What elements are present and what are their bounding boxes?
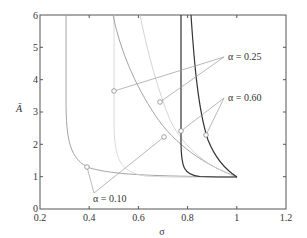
x-tick-label: 1.2 (280, 212, 293, 223)
curve-alpha-025-a (113, 15, 237, 177)
marker (162, 135, 167, 140)
y-tick-label: 0 (33, 203, 38, 214)
y-tick-label: 3 (33, 106, 38, 117)
annotation-alpha-025: α = 0.25 (228, 51, 261, 62)
marker (85, 165, 90, 170)
y-tick-labels: 0 1 2 3 4 5 6 (33, 10, 38, 215)
y-axis-label: Ā (15, 103, 23, 114)
marker (179, 129, 184, 134)
marker (158, 100, 163, 105)
curve-alpha-025-b (140, 15, 237, 177)
annotation-alpha-010: α = 0.10 (93, 193, 126, 204)
curve-alpha-010-a (66, 15, 237, 177)
x-ticks (89, 15, 237, 209)
chart: 0.2 0.4 0.6 0.8 1 1.2 0 1 2 3 4 5 6 σ Ā (0, 0, 307, 238)
annotation-alpha-060: α = 0.60 (228, 92, 261, 103)
marker (204, 133, 209, 138)
y-tick-label: 1 (33, 171, 38, 182)
y-tick-label: 6 (33, 10, 38, 21)
x-tick-label: 0.8 (181, 212, 194, 223)
y-tick-label: 2 (33, 139, 38, 150)
plot-area (40, 15, 286, 209)
marker (112, 89, 117, 94)
x-tick-label: 0.4 (83, 212, 96, 223)
curve-alpha-010-b (114, 15, 237, 177)
curves (66, 15, 237, 177)
y-tick-label: 5 (33, 42, 38, 53)
y-tick-label: 4 (33, 74, 38, 85)
y-ticks (40, 47, 286, 176)
x-tick-label: 1 (234, 212, 239, 223)
x-tick-labels: 0.2 0.4 0.6 0.8 1 1.2 (34, 212, 293, 223)
x-tick-label: 0.6 (132, 212, 145, 223)
x-axis-label: σ (159, 226, 165, 237)
